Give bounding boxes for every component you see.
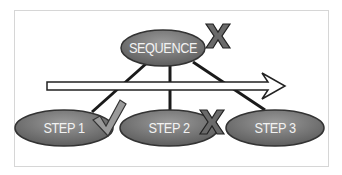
step-1-label: STEP 1 [32,119,97,136]
x-mark-icon [206,24,230,48]
root-node-label: SEQUENCE [127,39,198,56]
step-3-label: STEP 3 [243,119,308,136]
diagram-canvas [0,0,342,175]
step-2-label: STEP 2 [137,119,202,136]
timeline-arrow-icon [47,73,285,99]
